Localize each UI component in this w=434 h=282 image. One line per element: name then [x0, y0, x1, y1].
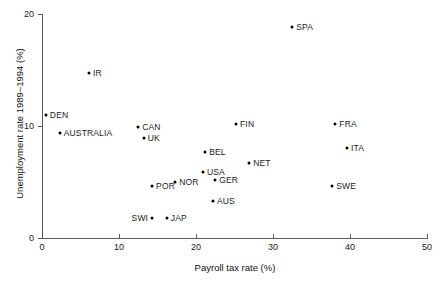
data-point-ger [214, 178, 217, 181]
data-point-swe [331, 185, 334, 188]
x-tick-label: 40 [345, 242, 355, 252]
data-point-ita [345, 147, 348, 150]
data-point-australia [58, 131, 61, 134]
x-tick-label: 30 [268, 242, 278, 252]
x-axis-line [42, 238, 428, 239]
x-tick-mark [350, 234, 351, 238]
data-point-label-uk: UK [148, 133, 160, 143]
y-tick-mark [38, 126, 42, 127]
x-tick-mark [42, 234, 43, 238]
x-tick-mark [273, 234, 274, 238]
x-tick-label: 0 [39, 242, 44, 252]
data-point-label-ita: ITA [351, 143, 364, 153]
data-point-label-fin: FIN [240, 119, 254, 129]
x-tick-label: 10 [114, 242, 124, 252]
y-tick-label: 0 [29, 233, 34, 243]
data-point-ir [87, 72, 90, 75]
y-tick-label: 10 [24, 121, 34, 131]
data-point-spa [291, 26, 294, 29]
y-tick-mark [38, 238, 42, 239]
data-point-fin [235, 122, 238, 125]
y-axis-line [42, 14, 43, 239]
data-point-bel [204, 150, 207, 153]
data-point-label-spa: SPA [296, 22, 313, 32]
scatter-plot-figure: 01020304050 01020 DENAUSTRALIAIRCANUKPOR… [0, 0, 434, 282]
data-point-por [151, 185, 154, 188]
data-point-can [137, 126, 140, 129]
data-point-uk [142, 137, 145, 140]
data-point-jap [165, 216, 168, 219]
y-tick-mark [38, 14, 42, 15]
data-point-nor [174, 181, 177, 184]
x-tick-label: 50 [422, 242, 432, 252]
y-tick-label: 20 [24, 9, 34, 19]
data-point-label-swi: SWI [132, 213, 149, 223]
data-point-fra [334, 122, 337, 125]
x-tick-mark [119, 234, 120, 238]
data-point-label-fra: FRA [339, 119, 356, 129]
data-point-den [44, 113, 47, 116]
data-point-label-aus: AUS [217, 196, 235, 206]
data-point-label-can: CAN [142, 122, 160, 132]
x-tick-mark [196, 234, 197, 238]
data-point-swi [151, 216, 154, 219]
data-point-aus [211, 200, 214, 203]
data-point-usa [201, 170, 204, 173]
data-point-label-jap: JAP [171, 213, 187, 223]
data-point-label-ger: GER [219, 175, 238, 185]
data-point-label-por: POR [156, 181, 175, 191]
data-point-label-ir: IR [93, 68, 102, 78]
data-point-label-net: NET [253, 158, 270, 168]
data-point-label-nor: NOR [179, 177, 198, 187]
x-axis-title: Payroll tax rate (%) [42, 262, 428, 273]
data-point-label-bel: BEL [209, 147, 226, 157]
x-tick-label: 20 [191, 242, 201, 252]
x-tick-mark [427, 234, 428, 238]
y-axis-title: Unemployment rate 1989–1994 (%) [14, 9, 25, 239]
data-point-label-swe: SWE [336, 181, 356, 191]
data-point-label-australia: AUSTRALIA [64, 128, 113, 138]
data-point-net [248, 161, 251, 164]
data-point-label-den: DEN [50, 110, 68, 120]
